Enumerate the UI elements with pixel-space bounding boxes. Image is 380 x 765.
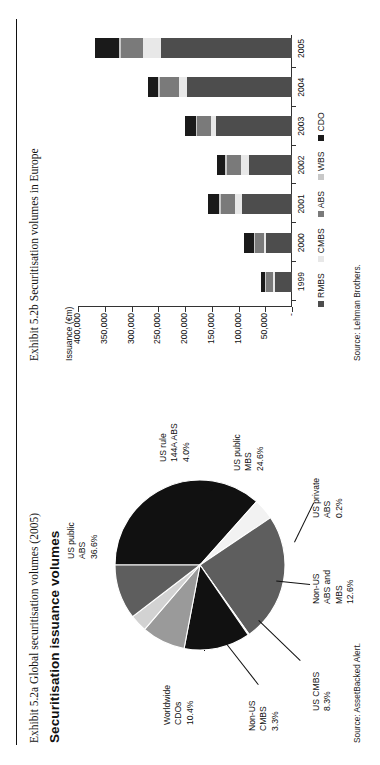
x-tickmark-2003 — [292, 145, 296, 146]
y-tickmark-3 — [212, 307, 213, 312]
legend-swatch-cdo — [318, 135, 324, 141]
x-tick-2001: 2001 — [296, 187, 306, 221]
bar-segment-rmbs-2001 — [242, 194, 292, 214]
bar-segment-abs-2003 — [197, 116, 211, 136]
x-tickmark-2002 — [292, 183, 296, 184]
bar-segment-cdo-2001 — [208, 194, 220, 214]
x-tick-2005: 2005 — [296, 31, 306, 65]
bar-segment-rmbs-2005 — [161, 38, 292, 58]
y-tickmark-8 — [78, 307, 79, 312]
legend-item-cmbs: CMBS — [316, 228, 326, 262]
bar-segment-abs-2004 — [160, 77, 179, 97]
bar-segment-rmbs-2003 — [216, 116, 293, 136]
legend-item-abs: ABS — [316, 191, 326, 217]
y-tick-4: 200,000 — [179, 313, 189, 361]
x-tick-1999: 1999 — [296, 265, 306, 299]
x-tickmark-2001 — [292, 222, 296, 223]
x-tick-2000: 2000 — [296, 226, 306, 260]
legend-label-cmbs: CMBS — [316, 228, 326, 253]
y-tickmark-4 — [185, 307, 186, 312]
legend-swatch-abs — [318, 211, 324, 217]
bar-segment-cdo-2005 — [95, 38, 119, 58]
legend-item-rmbs: RMBS — [316, 273, 326, 307]
x-tickmark-2005 — [292, 67, 296, 68]
x-tick-2003: 2003 — [296, 109, 306, 143]
exhibit-b-caption: Exhibit 5.2b Securitisation volumes in E… — [28, 148, 40, 361]
bar-chart-panel: Issuance (€m) -50,000100,000150,000200,0… — [58, 15, 348, 367]
pie-chart-panel: US public ABS 36.6% US rule 144A ABS 4.0… — [62, 387, 347, 747]
y-tickmark-2 — [239, 307, 240, 312]
bar-segment-cmbs-2004 — [179, 77, 186, 97]
bar-segment-cdo-2002 — [217, 155, 224, 175]
legend-label-rmbs: RMBS — [316, 273, 326, 298]
bar-segment-abs-2000 — [255, 233, 264, 253]
bar-segment-rmbs-2004 — [187, 77, 292, 97]
bar-segment-cdo-2004 — [148, 77, 158, 97]
pie-label-nonus-abs-and-mbs: Non-US ABS and MBS 12.6% — [311, 570, 357, 604]
bar-column-2003 — [185, 116, 293, 136]
pie-svg — [114, 479, 286, 651]
bar-segment-rmbs-2000 — [266, 233, 292, 253]
book-page: Exhibit 5.2a Global securitisation volum… — [0, 0, 380, 765]
y-tick-1: 50,000 — [259, 313, 269, 361]
pie-label-us-public-mbs: US public MBS 24.6% — [232, 434, 266, 471]
bar-segment-abs-2002 — [227, 155, 241, 175]
legend-item-cdo: CDO — [316, 112, 326, 140]
source-note-a: Source: AssetBacked Alert. — [352, 643, 362, 743]
bar-segment-cmbs-2005 — [143, 38, 161, 58]
bar-column-2000 — [244, 233, 292, 253]
x-tickmark-2004 — [292, 106, 296, 107]
y-tickmark-0 — [292, 307, 293, 312]
y-tick-0: - — [286, 313, 296, 361]
legend-item-wbs: WBS — [316, 152, 326, 181]
y-tickmark-7 — [105, 307, 106, 312]
pie-chart — [114, 479, 286, 651]
pie-label-us-private-abs: US private ABS 0.2% — [311, 478, 345, 518]
y-tick-2: 100,000 — [233, 313, 243, 361]
x-tick-2004: 2004 — [296, 70, 306, 104]
bar-segment-cdo-2000 — [244, 233, 253, 253]
x-tickmark-2000 — [292, 261, 296, 262]
y-tick-8: 400,000 — [72, 313, 82, 361]
legend-label-cdo: CDO — [316, 112, 326, 131]
bar-column-2002 — [217, 155, 292, 175]
source-note-b: Source: Lehman Brothers. — [352, 264, 362, 361]
section-title: Securitisation issuance volumes — [47, 531, 62, 743]
legend-label-abs: ABS — [316, 191, 326, 208]
bar-segment-rmbs-1999 — [275, 272, 292, 292]
legend-swatch-cmbs — [318, 256, 324, 262]
y-tickmark-5 — [158, 307, 159, 312]
pie-label-nonus-cmbs: Non-US CMBS 3.3% — [247, 700, 281, 731]
bar-segment-abs-2005 — [121, 38, 142, 58]
legend-label-wbs: WBS — [316, 152, 326, 172]
y-tickmark-6 — [132, 307, 133, 312]
pie-label-worldwide-cdos: Worldwide CDOs 10.4% — [162, 685, 196, 725]
pie-label-us-cmbs: US CMBS 8.3% — [311, 672, 334, 711]
pie-label-us-rule-144a-abs: US rule 144A ABS 4.0% — [158, 423, 192, 462]
bar-segment-rmbs-2002 — [249, 155, 292, 175]
bar-segment-cdo-2003 — [185, 116, 196, 136]
y-tick-7: 350,000 — [99, 313, 109, 361]
bar-plot-area — [78, 35, 292, 307]
legend-swatch-rmbs — [318, 301, 324, 307]
x-tick-2002: 2002 — [296, 148, 306, 182]
bar-column-1999 — [261, 272, 292, 292]
bar-segment-abs-2001 — [221, 194, 235, 214]
y-tick-5: 250,000 — [152, 313, 162, 361]
page-frame: Exhibit 5.2a Global securitisation volum… — [0, 0, 380, 765]
pie-label-us-public-abs: US public ABS 36.6% — [66, 522, 100, 559]
bar-chart-legend: RMBSCMBSABSWBSCDO — [316, 112, 326, 307]
bar-segment-cmbs-2001 — [235, 194, 242, 214]
bar-column-2005 — [95, 38, 292, 58]
y-tick-6: 300,000 — [126, 313, 136, 361]
legend-swatch-wbs — [318, 174, 324, 180]
bar-segment-abs-1999 — [266, 272, 273, 292]
exhibit-a-caption: Exhibit 5.2a Global securitisation volum… — [28, 513, 40, 743]
x-tickmark-1999 — [292, 300, 296, 301]
leader-line-worldwide-cdos — [204, 650, 205, 651]
y-tick-3: 150,000 — [206, 313, 216, 361]
bar-column-2001 — [208, 194, 293, 214]
bar-segment-cmbs-2002 — [241, 155, 250, 175]
bar-column-2004 — [148, 77, 292, 97]
y-tickmark-1 — [265, 307, 266, 312]
